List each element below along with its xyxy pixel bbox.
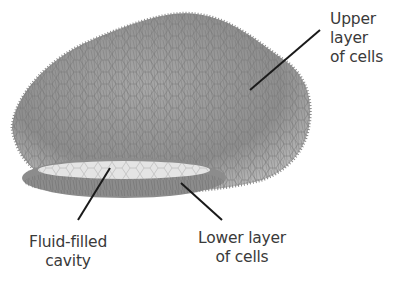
label-line: Lower layer [186, 229, 298, 248]
cavity-label: Fluid-filled cavity [20, 233, 116, 271]
label-line: Fluid-filled [20, 233, 116, 252]
label-line: Upper [330, 10, 383, 29]
label-line: cavity [20, 252, 116, 271]
upper-layer-label: Upper layer of cells [330, 10, 383, 67]
label-line: layer [330, 29, 383, 48]
label-line: of cells [186, 248, 298, 267]
fluid-filled-cavity [38, 161, 210, 179]
lower-layer-label: Lower layer of cells [186, 229, 298, 267]
label-line: of cells [330, 48, 383, 67]
placozoan-diagram: Upper layer of cells Fluid-filled cavity… [0, 0, 394, 284]
